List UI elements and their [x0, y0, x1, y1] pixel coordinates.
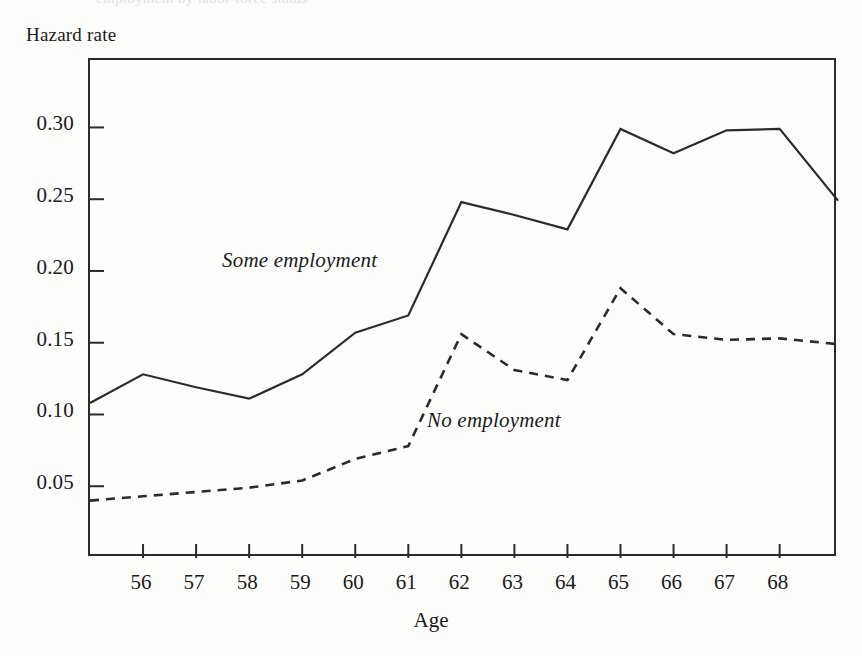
series-line-some-employment: [90, 129, 838, 403]
x-tick-label: 57: [172, 570, 216, 595]
y-tick-label: 0.15: [4, 327, 74, 352]
series-label-no-employment: No employment: [427, 408, 561, 433]
series-label-some-employment: Some employment: [222, 248, 377, 273]
y-tick-label: 0.30: [4, 111, 74, 136]
x-tick-label: 63: [490, 570, 534, 595]
y-tick-label: 0.20: [4, 255, 74, 280]
x-tick-label: 62: [437, 570, 481, 595]
chart-canvas: [90, 60, 838, 558]
x-tick-label: 60: [331, 570, 375, 595]
y-axis-label: Hazard rate: [26, 24, 116, 46]
x-tick-label: 68: [756, 570, 800, 595]
x-tick-label: 67: [703, 570, 747, 595]
series-line-no-employment: [90, 288, 838, 500]
x-tick-label: 56: [119, 570, 163, 595]
x-tick-label: 61: [384, 570, 428, 595]
y-tick-label: 0.05: [4, 470, 74, 495]
x-axis-label: Age: [0, 608, 862, 633]
plot-area: [88, 58, 836, 556]
x-tick-label: 59: [278, 570, 322, 595]
y-tick-label: 0.25: [4, 183, 74, 208]
y-tick-label: 0.10: [4, 398, 74, 423]
x-tick-label: 65: [596, 570, 640, 595]
x-tick-label: 58: [225, 570, 269, 595]
x-tick-label: 64: [543, 570, 587, 595]
clipped-page-header: employment by labor-force status: [96, 0, 596, 6]
x-tick-label: 66: [650, 570, 694, 595]
